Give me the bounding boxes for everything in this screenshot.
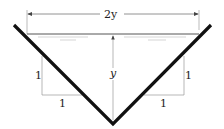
right-slope-indicator: 1 1 <box>144 56 192 110</box>
left-slope-rise-label: 1 <box>35 69 42 82</box>
top-width-label: 2y <box>104 8 118 21</box>
top-width-dimension: 2y <box>27 8 199 34</box>
depth-label: y <box>109 67 117 80</box>
depth-dimension: y <box>108 36 118 120</box>
left-slope-run-label: 1 <box>59 97 66 110</box>
triangular-channel-diagram: 2y y 1 1 1 1 <box>0 0 224 129</box>
right-slope-rise-label: 1 <box>185 69 192 82</box>
left-slope-indicator: 1 1 <box>35 56 82 110</box>
right-slope-run-label: 1 <box>160 97 167 110</box>
